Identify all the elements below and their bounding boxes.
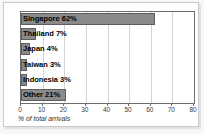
bar-label: Singapore 62% [23, 12, 77, 26]
bar-row: Indonesia 3% [21, 73, 194, 88]
x-axis: 01020304050607080 [20, 104, 195, 115]
bar-series: Singapore 62%Thailand 7%Japan 4%Taiwan 3… [21, 12, 194, 103]
bar-row: Taiwan 3% [21, 58, 194, 73]
x-tick-label: 20 [60, 106, 67, 113]
bar-row: Thailand 7% [21, 27, 194, 42]
x-tick-label: 80 [189, 106, 196, 113]
bar-row: Japan 4% [21, 42, 194, 57]
x-tick-label: 60 [146, 106, 153, 113]
x-tick-label: 70 [168, 106, 175, 113]
x-tick-label: 50 [125, 106, 132, 113]
x-tick-label: 0 [18, 106, 22, 113]
bar-row: Singapore 62% [21, 12, 194, 27]
bar-label: Taiwan 3% [23, 58, 61, 72]
bar-label: Other 21% [23, 88, 60, 102]
bar-row: Other 21% [21, 88, 194, 103]
bar-label: Indonesia 3% [23, 73, 71, 87]
bar-label: Japan 4% [23, 42, 58, 56]
x-axis-label: % of total arrivals [18, 115, 70, 122]
x-tick-label: 40 [103, 106, 110, 113]
chart-card: Singapore 62%Thailand 7%Japan 4%Taiwan 3… [3, 2, 199, 127]
plot-area: Singapore 62%Thailand 7%Japan 4%Taiwan 3… [20, 11, 195, 104]
chart-screenshot: Singapore 62%Thailand 7%Japan 4%Taiwan 3… [0, 0, 204, 134]
bar-label: Thailand 7% [23, 27, 67, 41]
x-tick-label: 10 [38, 106, 45, 113]
x-tick-label: 30 [81, 106, 88, 113]
